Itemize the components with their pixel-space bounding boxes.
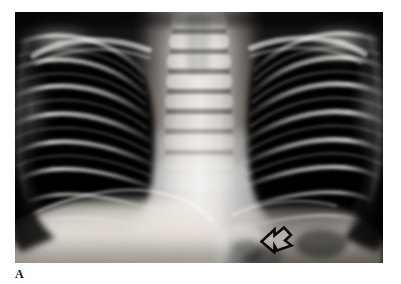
open-arrow-glyph xyxy=(260,224,296,254)
panel-label: A xyxy=(15,268,24,281)
figure-root: A xyxy=(0,0,401,284)
film-grain xyxy=(15,12,383,263)
open-arrow-icon xyxy=(260,224,296,254)
radiograph-render-surface xyxy=(15,12,383,263)
chest-radiograph-image xyxy=(15,12,383,263)
